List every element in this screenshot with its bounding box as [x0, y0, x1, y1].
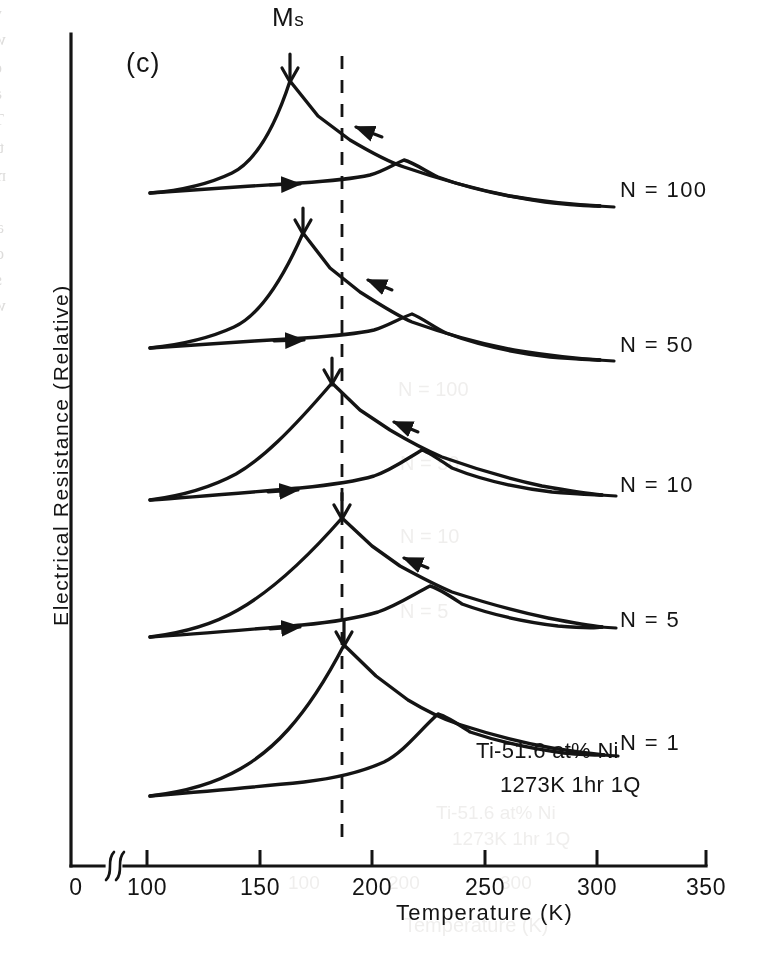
curve-n-10: [150, 383, 602, 500]
sample-composition-label: Ti-51.6 at% Ni: [476, 738, 619, 764]
ms-arrow-n-50: [295, 208, 311, 234]
curve-label-n-100: N = 100: [620, 177, 707, 203]
x-tick-label-350: 350: [686, 874, 726, 901]
figure-plate: (c) Ms N = 100N = 50N = 10N = 5N = 1 Ele…: [0, 0, 768, 963]
ms-subscript: s: [294, 9, 304, 30]
x-axis-break-symbol: [106, 852, 124, 880]
ms-label: Ms: [272, 2, 304, 33]
curve-label-leaders: [598, 206, 618, 756]
ms-arrow-n-100: [282, 54, 298, 82]
x-tick-label-150: 150: [240, 874, 280, 901]
y-axis-title: Electrical Resistance (Relative): [49, 195, 73, 715]
curve-label-n-1: N = 1: [620, 730, 680, 756]
ms-arrow-n-10: [324, 358, 340, 384]
x-tick-label-0: 0: [69, 874, 82, 901]
curve-n-5: [150, 518, 602, 637]
curve-n-50: [150, 233, 600, 360]
curve-label-n-50: N = 50: [620, 332, 694, 358]
curve-label-n-5: N = 5: [620, 607, 680, 633]
x-axis-ticks: [147, 850, 706, 866]
x-tick-label-200: 200: [352, 874, 392, 901]
ms-arrow-n-1: [336, 620, 352, 646]
ms-arrow-n-5: [334, 493, 350, 519]
x-tick-label-300: 300: [577, 874, 617, 901]
x-axis-title: Temperature (K): [396, 900, 573, 926]
panel-label: (c): [126, 48, 160, 79]
x-tick-label-100: 100: [127, 874, 167, 901]
ms-symbol: M: [272, 2, 294, 32]
curve-n-100: [150, 81, 600, 206]
curve-label-n-10: N = 10: [620, 472, 694, 498]
x-tick-label-250: 250: [465, 874, 505, 901]
heat-treatment-label: 1273K 1hr 1Q: [500, 772, 641, 798]
